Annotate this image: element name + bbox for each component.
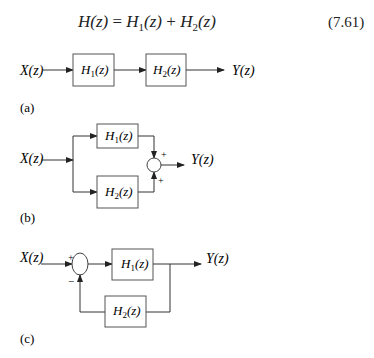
a-caption: (a) bbox=[20, 100, 34, 115]
b-caption: (b) bbox=[20, 210, 35, 225]
c-sign-input: + bbox=[68, 252, 74, 263]
c-block-h2-label: H2(z) bbox=[112, 303, 141, 320]
c-arrow-feedback-to-sum bbox=[80, 275, 105, 312]
a-output-label: Y(z) bbox=[232, 63, 255, 79]
a-block-h2-label: H2(z) bbox=[152, 62, 181, 79]
b-summing-junction bbox=[147, 158, 161, 172]
b-arrow-h1-to-sum bbox=[138, 136, 154, 158]
diagram-a-cascade: X(z) H1(z) H2(z) Y(z) (a) bbox=[19, 54, 255, 115]
diagram-c-feedback: X(z) + − H1(z) Y(z) H2(z) (c) bbox=[19, 249, 229, 346]
c-input-label: X(z) bbox=[19, 250, 44, 266]
b-arrow-h2-to-sum bbox=[138, 172, 154, 192]
c-caption: (c) bbox=[20, 331, 34, 346]
c-summing-junction bbox=[72, 253, 88, 275]
block-diagrams: X(z) H1(z) H2(z) Y(z) (a) X(z) H1(z) H2(… bbox=[0, 0, 374, 358]
diagram-b-parallel: X(z) H1(z) H2(z) + + Y(z) (b) bbox=[19, 124, 214, 225]
b-sign-top: + bbox=[161, 149, 167, 160]
c-output-label: Y(z) bbox=[206, 251, 229, 267]
b-input-label: X(z) bbox=[19, 151, 44, 167]
c-block-h1-label: H1(z) bbox=[120, 256, 149, 273]
b-sign-bottom: + bbox=[158, 175, 164, 186]
b-block-h2-label: H2(z) bbox=[104, 184, 133, 201]
a-block-h1-label: H1(z) bbox=[80, 62, 109, 79]
a-input-label: X(z) bbox=[19, 63, 44, 79]
c-sign-feedback: − bbox=[68, 275, 74, 287]
b-output-label: Y(z) bbox=[191, 152, 214, 168]
b-block-h1-label: H1(z) bbox=[104, 128, 133, 145]
